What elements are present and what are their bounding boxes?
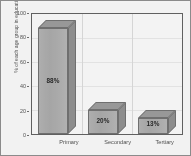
y-tick-0-label: 0: [23, 132, 26, 138]
plot-inner: 88%20%13%: [32, 14, 182, 134]
y-axis-ticks: 100 80 60 40 20 0: [11, 13, 29, 135]
x-axis-ticks: Primary Secondary Tertiary: [31, 139, 183, 151]
y-tick-0-dash: [27, 135, 29, 136]
plot-area: 88%20%13%: [31, 13, 183, 135]
y-tick-80-dash: [27, 37, 29, 38]
y-tick-40-dash: [27, 86, 29, 87]
bar-group: 88%20%13%: [32, 14, 182, 134]
y-tick-100-label: 100: [17, 10, 26, 16]
y-tick-40: 40: [11, 83, 29, 89]
y-tick-60-dash: [27, 62, 29, 63]
y-tick-0: 0: [11, 132, 29, 138]
x-tick-primary: Primary: [59, 139, 78, 145]
x-tick-secondary: Secondary: [104, 139, 131, 145]
y-tick-100: 100: [11, 10, 29, 16]
bar-value-label: 13%: [138, 120, 168, 127]
bar-tertiary: 13%: [138, 110, 168, 134]
bar-side-face: [68, 20, 76, 134]
bar-value-label: 20%: [88, 117, 118, 124]
y-tick-20-dash: [27, 111, 29, 112]
x-tick-tertiary: Tertiary: [156, 139, 174, 145]
y-tick-100-dash: [27, 13, 29, 14]
y-tick-20: 20: [11, 108, 29, 114]
y-tick-40-label: 40: [20, 83, 26, 89]
y-tick-60: 60: [11, 59, 29, 65]
chart-canvas: % of each age group in education 100 80 …: [3, 3, 190, 155]
y-tick-20-label: 20: [20, 108, 26, 114]
bar-primary: 88%: [38, 20, 68, 134]
y-tick-80: 80: [11, 34, 29, 40]
chart-figure: % of each age group in education 100 80 …: [0, 0, 191, 156]
bar-secondary: 20%: [88, 102, 118, 134]
y-tick-80-label: 80: [20, 34, 26, 40]
bar-value-label: 88%: [38, 77, 68, 84]
y-tick-60-label: 60: [20, 59, 26, 65]
